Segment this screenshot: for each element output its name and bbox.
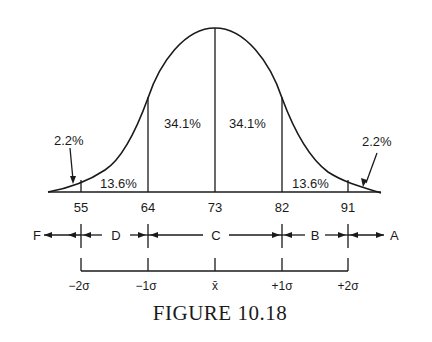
grade-f: F — [33, 228, 41, 243]
region-label-left-tail: 2.2% — [54, 133, 84, 148]
score-91: 91 — [341, 200, 355, 215]
grade-a: A — [390, 228, 399, 243]
sigma-mean: x̄ — [212, 279, 218, 293]
sigma-plus2: +2σ — [337, 279, 359, 293]
a-arrow-right-icon — [376, 232, 384, 238]
grade-d: D — [111, 228, 120, 243]
sigma-plus1: +1σ — [271, 279, 293, 293]
score-73: 73 — [208, 200, 222, 215]
right-tail-arrow — [366, 153, 377, 183]
score-82: 82 — [275, 200, 289, 215]
grade-row: F D C B A — [33, 224, 399, 248]
left-tail-arrow — [70, 148, 73, 180]
region-label-right-mid: 13.6% — [292, 176, 329, 191]
score-axis: 55 64 73 82 91 — [74, 200, 355, 215]
normal-distribution-figure: 2.2% 13.6% 34.1% 34.1% 13.6% 2.2% 55 64 … — [0, 0, 432, 342]
region-label-right-center: 34.1% — [229, 116, 266, 131]
score-64: 64 — [141, 200, 155, 215]
f-arrow-left-icon — [44, 232, 52, 238]
sigma-minus2: −2σ — [68, 279, 90, 293]
sigma-bracket — [81, 258, 348, 271]
sigma-minus1: −1σ — [135, 279, 157, 293]
grade-b: B — [311, 228, 320, 243]
region-label-left-center: 34.1% — [164, 116, 201, 131]
figure-caption: FIGURE 10.18 — [153, 301, 287, 325]
grade-c: C — [211, 228, 220, 243]
sigma-axis: −2σ −1σ x̄ +1σ +2σ — [68, 279, 359, 293]
left-tail-arrowhead-icon — [70, 176, 76, 184]
region-label-right-tail: 2.2% — [362, 134, 392, 149]
score-55: 55 — [74, 200, 88, 215]
region-label-left-mid: 13.6% — [100, 176, 137, 191]
